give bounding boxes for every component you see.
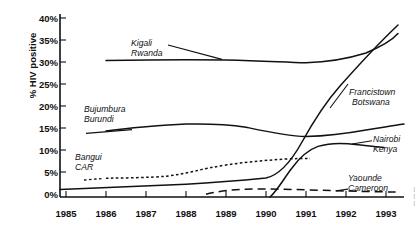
plot-area [0,0,416,235]
series-label-bujumbura-city: Bujumbura [84,104,126,114]
series-label-bujumbura-country: Burundi [84,114,126,124]
series-label-francistown-botswana: Francistown Botswana [349,87,395,108]
leader-line-yaounde [336,189,348,191]
series-label-bujumbura-burundi: Bujumbura Burundi [84,104,126,125]
x-tick-marks [66,191,386,197]
series-label-francistown-country: Botswana [349,97,395,107]
series-label-yaounde-cameroon: Yaounde Cameroon [348,173,388,194]
series-label-bangui-city: Bangui [75,152,102,162]
series-label-kigali-city: Kigali [131,38,163,48]
series-label-nairobi-kenya: Nairobi Kenya [373,134,400,155]
series-label-bangui-country: CAR [75,162,102,172]
series-line-bujumbura-burundi [106,124,404,137]
series-label-nairobi-country: Kenya [373,144,400,154]
series-label-yaounde-city: Yaounde [348,173,388,183]
leader-line-nairobi [352,141,372,144]
series-label-kigali-rwanda: Kigali Rwanda [131,38,163,59]
series-label-nairobi-city: Nairobi [373,134,400,144]
series-label-kigali-country: Rwanda [131,48,163,58]
series-label-yaounde-country: Cameroon [348,183,388,193]
hiv-prevalence-line-chart: % HIV positive 40% 35% 30% 25% 20% 15% 1… [0,0,416,235]
series-label-francistown-city: Francistown [349,87,395,97]
series-label-bangui-car: Bangui CAR [75,152,102,173]
y-tick-marks [60,18,66,172]
leader-line-bangui [84,178,104,180]
series-line-bangui-car [106,159,310,179]
clipped-edge-marks: ||| [413,186,415,207]
leader-line-kigali [168,45,222,59]
